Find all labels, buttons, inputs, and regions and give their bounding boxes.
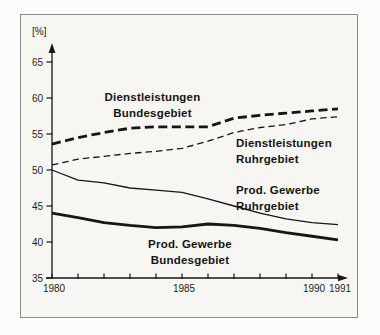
series-line-pg_bund: [52, 213, 338, 240]
series-label-line: Dienstleistungen: [95, 90, 210, 106]
series-label-line: Bundesgebiet: [95, 106, 210, 122]
y-tick-label: 60: [32, 93, 44, 104]
x-tick-label: 1991: [329, 283, 352, 294]
series-label-line: Bundesgebiet: [138, 253, 242, 269]
x-axis-arrow: [338, 275, 348, 281]
series-label-line: Dienstleistungen: [236, 136, 332, 152]
y-axis-arrow: [49, 43, 56, 53]
series-label-line: Prod. Gewerbe: [138, 237, 242, 253]
x-tick-label: 1980: [43, 283, 66, 294]
series-label-prod-gewerbe-ruhrgebiet: Prod. Gewerbe Ruhrgebiet: [236, 183, 320, 214]
y-tick-label: 65: [32, 57, 44, 68]
y-tick-label: 35: [32, 273, 44, 284]
x-tick-label: 1985: [173, 283, 196, 294]
series-label-prod-gewerbe-bundesgebiet: Prod. Gewerbe Bundesgebiet: [138, 237, 242, 268]
series-label-line: Ruhrgebiet: [236, 199, 320, 215]
y-tick-label: 40: [32, 237, 44, 248]
y-tick-label: 50: [32, 165, 44, 176]
series-label-dienstleistungen-ruhrgebiet: Dienstleistungen Ruhrgebiet: [236, 136, 332, 167]
series-label-line: Prod. Gewerbe: [236, 183, 320, 199]
line-chart: 656055504540351980198519901991: [0, 0, 380, 335]
y-tick-label: 55: [32, 129, 44, 140]
x-tick-label: 1990: [303, 283, 326, 294]
y-axis-unit-label: [%]: [32, 26, 46, 37]
figure-root: 656055504540351980198519901991 [%] Diens…: [0, 0, 380, 335]
y-tick-label: 45: [32, 201, 44, 212]
series-label-line: Ruhrgebiet: [236, 152, 332, 168]
series-label-dienstleistungen-bundesgebiet: Dienstleistungen Bundesgebiet: [95, 90, 210, 121]
